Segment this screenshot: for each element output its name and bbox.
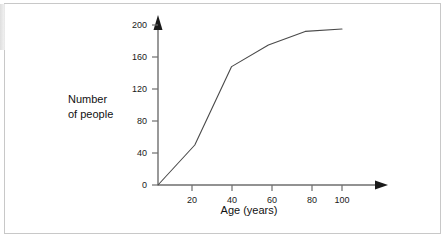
y-axis-ticks	[152, 25, 158, 185]
y-tick-label-80: 80	[137, 116, 147, 126]
y-axis-arrowhead	[154, 15, 163, 30]
y-tick-label-160: 160	[132, 52, 147, 62]
x-axis-title-text: Age (years)	[221, 204, 278, 216]
data-series-line	[158, 29, 342, 185]
y-tick-label-200: 200	[132, 20, 147, 30]
line-chart: 20 40 60 80 100 0 40 80 120 160 200 Numb…	[0, 0, 448, 240]
y-tick-label-0: 0	[142, 180, 147, 190]
x-axis-title: Age (years)	[0, 204, 448, 216]
x-axis-ticks	[192, 185, 342, 191]
y-axis-title: Number of people	[68, 92, 113, 122]
y-tick-label-120: 120	[132, 84, 147, 94]
y-axis-title-line2: of people	[68, 107, 113, 122]
y-axis-title-line1: Number	[68, 92, 113, 107]
y-tick-label-40: 40	[137, 148, 147, 158]
x-axis-arrowhead	[375, 181, 388, 190]
